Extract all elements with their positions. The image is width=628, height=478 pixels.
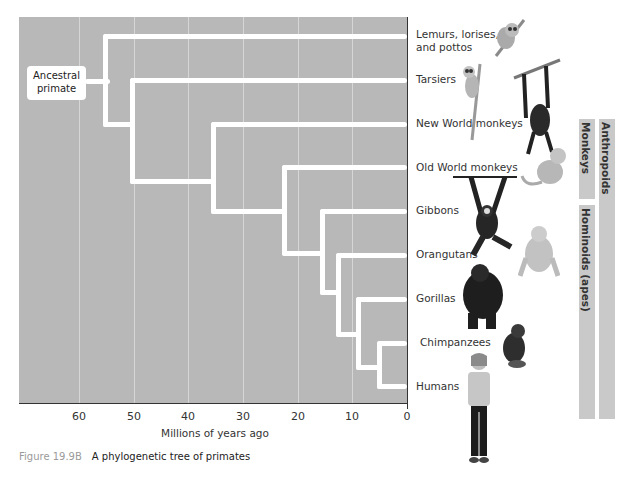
present-line [407, 17, 408, 409]
branch-chimpanzees [377, 341, 407, 346]
x-axis-line [19, 403, 408, 404]
branch-tarsiers [130, 78, 407, 83]
gibbon-illustration-icon [453, 175, 518, 263]
tick-20: 20 [286, 410, 310, 423]
branch-anthropoids [130, 179, 216, 184]
tick-10: 10 [340, 410, 364, 423]
orangutan-illustration-icon [518, 224, 560, 280]
tick-30: 30 [231, 410, 255, 423]
node-12mya [336, 253, 341, 337]
loris-illustration-icon [492, 18, 528, 58]
node-15mya [320, 209, 325, 295]
taxon-humans: Humans [416, 380, 459, 393]
taxon-lemurs: Lemurs, lorises, and pottos [416, 28, 499, 54]
gridline-20 [298, 17, 299, 404]
chimpanzee-illustration-icon [501, 322, 529, 368]
branch-gorillas [356, 297, 407, 302]
old-world-monkey-illustration-icon [520, 146, 570, 188]
tick-60: 60 [67, 410, 91, 423]
tick-50: 50 [122, 410, 146, 423]
figure-caption: Figure 19.9BA phylogenetic tree of prima… [19, 451, 250, 462]
branch-humans [377, 384, 407, 389]
branch-old-world-monkeys [282, 165, 407, 170]
taxon-gorillas: Gorillas [416, 292, 456, 305]
branch-lemurs [103, 34, 407, 39]
node-5mya [377, 341, 382, 389]
gorilla-illustration-icon [460, 263, 506, 331]
x-axis-label: Millions of years ago [150, 427, 280, 439]
node-22mya [282, 165, 287, 256]
branch-new-world-monkeys [211, 122, 407, 127]
taxon-chimpanzees: Chimpanzees [420, 336, 491, 349]
figure-number: Figure 19.9B [19, 451, 82, 462]
branch-gibbons [320, 209, 407, 214]
group-label-anthropoids: Anthropoids [600, 122, 612, 195]
node-50mya [130, 78, 135, 184]
taxon-tarsiers: Tarsiers [416, 73, 456, 86]
node-55mya [103, 34, 108, 127]
tarsier-illustration-icon [460, 62, 490, 142]
human-illustration-icon [462, 352, 496, 466]
branch-catarrhines [211, 209, 286, 214]
branch-hominoids [282, 251, 324, 256]
gridline-40 [188, 17, 189, 404]
spider-monkey-illustration-icon [512, 58, 562, 156]
caption-text: A phylogenetic tree of primates [92, 451, 250, 462]
gridline-50 [134, 17, 135, 404]
group-label-hominoids: Hominoids (apes) [580, 208, 592, 312]
tick-40: 40 [176, 410, 200, 423]
tick-0: 0 [395, 410, 419, 423]
taxon-old-world-monkeys: Old World monkeys [416, 161, 518, 174]
group-label-monkeys: Monkeys [580, 122, 592, 174]
ancestral-primate-text: Ancestralprimate [33, 70, 80, 94]
node-9mya [356, 297, 361, 370]
taxon-lemurs-line1: Lemurs, lorises, [416, 28, 499, 41]
taxon-lemurs-line2: and pottos [416, 41, 499, 54]
branch-orangutans [336, 253, 407, 258]
node-35mya [211, 122, 216, 214]
ancestral-primate-label: Ancestralprimate [27, 66, 86, 100]
